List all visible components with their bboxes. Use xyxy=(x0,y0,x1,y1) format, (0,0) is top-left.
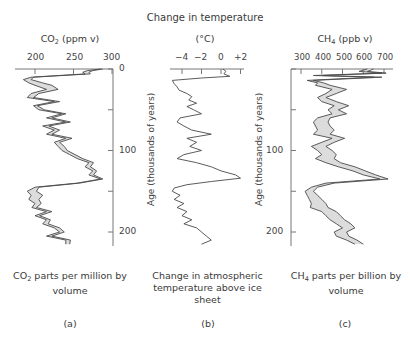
panel-letter-b: (b) xyxy=(193,318,223,330)
age-tick-200-a: 200 xyxy=(119,226,136,236)
age-axis-label-c: Age (thousands of years) xyxy=(254,96,264,206)
co2-axis-title: CO2 (ppm v) xyxy=(20,33,120,48)
age-tick-0-a: 0 xyxy=(119,63,125,73)
panel-letter-c: (c) xyxy=(330,318,360,330)
co2-tick-200: 200 xyxy=(27,52,44,62)
age-tick-200-c: 200 xyxy=(266,226,283,236)
age-axis-label-a: Age (thousands of years) xyxy=(146,96,156,206)
co2-tick-250: 250 xyxy=(66,52,83,62)
temperature-caption: Change in atmospheric temperature above … xyxy=(150,270,265,306)
age-tick-100-a: 100 xyxy=(119,145,136,155)
ch4-tick-400: 400 xyxy=(315,52,331,62)
temp-tick-0: 0 xyxy=(218,52,224,62)
ch4-tick-600: 600 xyxy=(356,52,372,62)
panel-letter-a: (a) xyxy=(55,318,85,330)
co2-tick-300: 300 xyxy=(103,52,120,62)
ch4-tick-500: 500 xyxy=(336,52,352,62)
temp-tick-plus2: +2 xyxy=(234,52,247,62)
temp-tick-minus2: −2 xyxy=(194,52,207,62)
ch4-tick-700: 700 xyxy=(377,52,393,62)
ch4-tick-300: 300 xyxy=(294,52,310,62)
co2-caption: CO2 parts per million by volume xyxy=(10,270,130,297)
temp-tick-minus4: −4 xyxy=(175,52,188,62)
temperature-panel xyxy=(170,69,244,244)
ch4-panel xyxy=(291,69,393,246)
ch4-axis-title: CH4 (ppb v) xyxy=(300,33,390,48)
ch4-caption: CH4 parts per billion by volume xyxy=(290,270,402,297)
header-title: Change in temperature xyxy=(140,12,270,24)
co2-panel xyxy=(15,69,113,246)
age-tick-100-c: 100 xyxy=(266,145,283,155)
temperature-axis-title: (°C) xyxy=(190,33,220,45)
